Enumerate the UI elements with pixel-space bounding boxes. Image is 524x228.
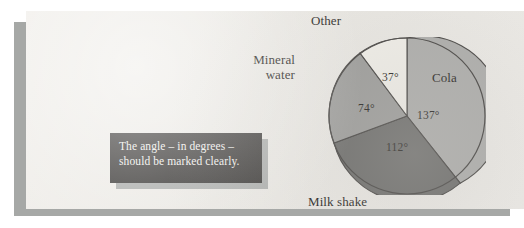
- pie-category-label-milk-shake: Milk shake: [308, 195, 367, 210]
- pie-category-label-mineral-water-line2: water: [266, 67, 295, 82]
- pie-category-label-mineral-water-line1: Mineral: [253, 52, 295, 67]
- scanned-page-sheet: The angle – in degrees – should be marke…: [26, 11, 524, 209]
- screenshot-root: The angle – in degrees – should be marke…: [0, 0, 524, 228]
- note-callout-text: The angle – in degrees – should be marke…: [119, 139, 253, 170]
- pie-category-label-cola: Cola: [432, 71, 457, 86]
- pie-category-label-mineral-water: Mineral water: [229, 53, 295, 82]
- note-callout-box: The angle – in degrees – should be marke…: [110, 133, 262, 183]
- pie-value-label-cola: 137°: [417, 109, 440, 121]
- pie-value-label-other: 37°: [382, 71, 399, 83]
- pie-chart: 137° 112° 74° 37°: [328, 37, 486, 195]
- pie-value-label-mineral-water: 74°: [358, 102, 375, 114]
- pie-category-label-other: Other: [311, 14, 341, 29]
- pie-chart-svg: [328, 37, 486, 195]
- pie-value-label-milk-shake: 112°: [386, 141, 408, 153]
